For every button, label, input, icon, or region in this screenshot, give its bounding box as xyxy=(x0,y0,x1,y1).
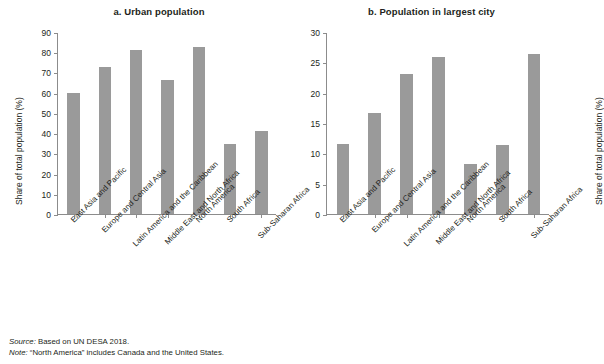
y-axis-tick: 20 xyxy=(323,94,327,95)
panel-b-plot-area: 051015202530 xyxy=(326,33,549,215)
y-axis-tick: 10 xyxy=(54,195,58,196)
source-line: Source: Based on UN DESA 2018. xyxy=(9,336,409,347)
y-axis-tick: 5 xyxy=(323,185,327,186)
panel-a-x-axis-labels: East Asia and PacificEurope and Central … xyxy=(0,216,290,332)
chart-panels: a. Urban population Share of total popul… xyxy=(0,0,563,330)
source-text: Based on UN DESA 2018. xyxy=(36,337,129,346)
y-axis-tick: 10 xyxy=(323,154,327,155)
bar xyxy=(337,144,350,214)
y-axis-tick: 80 xyxy=(54,53,58,54)
bar xyxy=(368,113,381,214)
y-axis-tick: 30 xyxy=(54,154,58,155)
y-axis-tick-label: 20 xyxy=(42,170,51,180)
bar xyxy=(432,57,445,214)
panel-population-largest-city: b. Population in largest city Share of t… xyxy=(290,0,563,330)
y-axis-tick-label: 40 xyxy=(42,129,51,139)
panel-a-plot-area: 0102030405060708090 xyxy=(57,33,276,215)
y-axis-tick-label: 25 xyxy=(311,58,320,68)
y-axis-tick: 40 xyxy=(54,134,58,135)
y-axis-tick-label: 50 xyxy=(42,109,51,119)
y-axis-tick: 20 xyxy=(54,175,58,176)
y-axis-tick: 60 xyxy=(54,94,58,95)
y-axis-tick-label: 10 xyxy=(311,149,320,159)
y-axis-tick-label: 10 xyxy=(42,190,51,200)
y-axis-tick: 25 xyxy=(323,63,327,64)
y-axis-tick: 70 xyxy=(54,73,58,74)
panel-b-title: b. Population in largest city xyxy=(290,6,563,17)
y-axis-tick: 90 xyxy=(54,33,58,34)
y-axis-tick-label: 30 xyxy=(42,149,51,159)
y-axis-tick: 30 xyxy=(323,33,327,34)
figure-footnotes: Source: Based on UN DESA 2018. Note: “No… xyxy=(9,336,409,358)
y-axis-tick-label: 20 xyxy=(311,89,320,99)
y-axis-tick-label: 15 xyxy=(311,119,320,129)
panel-a-title: a. Urban population xyxy=(0,6,290,17)
source-label: Source: xyxy=(9,337,36,346)
note-text: “North America” includes Canada and the … xyxy=(28,348,224,357)
bar xyxy=(67,93,80,214)
y-axis-tick: 15 xyxy=(323,124,327,125)
panel-a-y-axis-label: Share of total population (%) xyxy=(14,97,24,205)
y-axis-tick: 50 xyxy=(54,114,58,115)
panel-urban-population: a. Urban population Share of total popul… xyxy=(0,0,290,330)
y-axis-tick-label: 30 xyxy=(311,28,320,38)
y-axis-tick-label: 80 xyxy=(42,48,51,58)
panel-b-x-axis-labels: East Asia and PacificEurope and Central … xyxy=(290,216,563,332)
note-label: Note: xyxy=(9,348,28,357)
y-axis-tick-label: 5 xyxy=(315,180,320,190)
bar xyxy=(255,131,268,214)
panel-b-y-axis-label: Share of total population (%) xyxy=(594,97,604,205)
y-axis-tick-label: 70 xyxy=(42,68,51,78)
y-axis-tick-label: 60 xyxy=(42,89,51,99)
bar xyxy=(161,80,174,214)
y-axis-tick-label: 90 xyxy=(42,28,51,38)
note-line: Note: “North America” includes Canada an… xyxy=(9,347,409,358)
